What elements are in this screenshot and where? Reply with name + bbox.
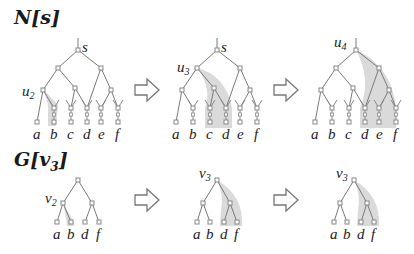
svg-text:e: e	[98, 126, 105, 142]
svg-text:d: d	[220, 226, 228, 242]
svg-text:e: e	[237, 126, 244, 142]
svg-text:f: f	[234, 226, 240, 242]
svg-text:f: f	[371, 226, 377, 242]
svg-text:c: c	[67, 126, 74, 142]
svg-text:c: c	[206, 126, 213, 142]
arrow-icon	[135, 189, 159, 211]
svg-text:f: f	[254, 126, 260, 142]
arrow-icon	[274, 79, 298, 101]
svg-text:c: c	[345, 126, 352, 142]
tree-n-panel-2: s u3 abc def	[172, 38, 262, 142]
tree-n-panel-1: s u2 abc def	[22, 38, 123, 142]
svg-text:a: a	[172, 126, 180, 142]
tree-g-panel-1: v2 abdf	[45, 178, 102, 242]
svg-text:s: s	[82, 39, 88, 55]
svg-text:f: f	[393, 126, 399, 142]
svg-text:a: a	[330, 226, 338, 242]
svg-text:b: b	[206, 226, 214, 242]
svg-text:f: f	[96, 226, 102, 242]
svg-text:v3: v3	[199, 165, 211, 183]
svg-text:b: b	[189, 126, 197, 142]
svg-text:d: d	[81, 226, 89, 242]
svg-text:v3: v3	[336, 165, 348, 183]
svg-text:d: d	[83, 126, 91, 142]
svg-text:a: a	[33, 126, 41, 142]
svg-text:a: a	[193, 226, 201, 242]
tree-g-panel-2: v3 abdf	[193, 165, 242, 242]
svg-text:b: b	[328, 126, 336, 142]
diagram-canvas: s u2 abc def s u3 abc def	[0, 0, 414, 254]
svg-text:u3: u3	[177, 59, 190, 77]
svg-text:f: f	[115, 126, 121, 142]
svg-text:u4: u4	[334, 34, 347, 52]
svg-text:a: a	[53, 226, 61, 242]
arrow-icon	[135, 79, 159, 101]
svg-text:d: d	[361, 126, 369, 142]
arrow-icon	[274, 189, 298, 211]
svg-text:u2: u2	[22, 83, 35, 101]
svg-text:b: b	[343, 226, 351, 242]
svg-text:d: d	[222, 126, 230, 142]
tree-n-panel-3: u4 abc def	[311, 34, 401, 142]
tree-g-panel-3: v3 abdf	[330, 165, 379, 242]
svg-text:b: b	[67, 226, 75, 242]
svg-text:a: a	[311, 126, 319, 142]
svg-text:s: s	[221, 39, 227, 55]
svg-text:b: b	[50, 126, 58, 142]
highlight-region	[198, 68, 232, 128]
svg-text:v2: v2	[45, 190, 57, 208]
svg-text:e: e	[376, 126, 383, 142]
svg-text:d: d	[357, 226, 365, 242]
